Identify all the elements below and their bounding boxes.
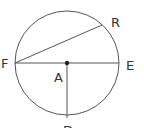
chord-FR [15, 25, 102, 63]
label-F: F [1, 56, 8, 71]
label-E: E [126, 58, 134, 73]
label-R: R [111, 15, 120, 30]
label-D: D [63, 123, 73, 128]
circle-diagram: F E A R D [0, 0, 144, 128]
center-point-A [65, 61, 69, 65]
label-A: A [54, 70, 63, 85]
